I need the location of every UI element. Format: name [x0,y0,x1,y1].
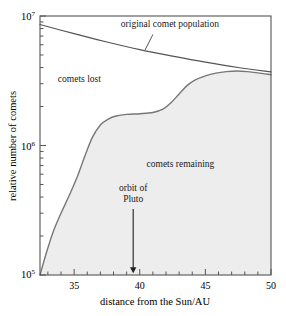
y-tick-label: 107 [21,10,36,22]
x-axis-tick-labels: 35404550 [69,280,276,291]
x-tick-label: 50 [266,280,276,291]
x-tick-label: 35 [69,280,79,291]
region-label-comets-remaining: comets remaining [147,159,215,169]
annotation-orbit-of-pluto-line2: Pluto [123,194,143,204]
region-label-comets-lost: comets lost [58,74,101,84]
x-tick-label: 40 [135,280,145,291]
y-tick-label: 106 [21,140,36,152]
annotation-orbit-of-pluto-line1: orbit of [119,183,148,193]
chart-svg: 35404550 105106107 distance from the Sun… [0,0,286,316]
x-axis-title: distance from the Sun/AU [100,296,210,307]
x-tick-label: 45 [200,280,210,291]
y-axis-title: relative number of comets [7,91,18,201]
annotation-original-comet-population: original comet population [121,19,219,29]
y-tick-label: 105 [21,268,36,280]
y-axis-tick-labels: 105106107 [21,10,36,280]
comet-population-chart: 35404550 105106107 distance from the Sun… [0,0,286,316]
